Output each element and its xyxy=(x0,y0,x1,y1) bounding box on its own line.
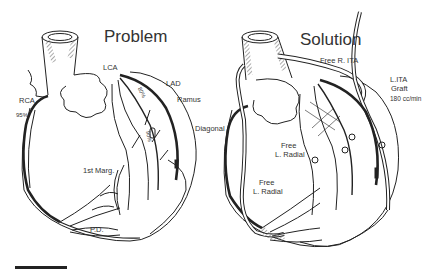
label-pd: P.D. xyxy=(90,225,104,234)
scale-bar xyxy=(15,266,67,269)
label-free-l-radial-2b: L. Radial xyxy=(253,187,283,196)
label-flow: 180 cc/min xyxy=(390,94,421,103)
label-rca-stenosis: 95% xyxy=(16,111,28,120)
heart-illustrations xyxy=(0,0,436,273)
solution-title: Solution xyxy=(300,30,361,50)
label-first-marginal: 1st Marg. xyxy=(83,166,114,175)
label-lita-graft: Graft xyxy=(391,84,408,93)
label-diagonal: Diagonal xyxy=(195,124,225,133)
problem-title: Problem xyxy=(104,27,167,47)
label-free-l-radial-2a: Free xyxy=(259,178,274,187)
label-ramus-stenosis: 90% xyxy=(143,130,154,142)
label-free-l-radial-1b: L. Radial xyxy=(275,150,305,159)
label-free-l-radial-1a: Free xyxy=(281,141,296,150)
label-lca: LCA xyxy=(103,63,118,72)
label-ramus: Ramus xyxy=(177,95,201,104)
coronary-bypass-diagram: Problem LCA LAD Ramus Diagonal RCA 95% 8… xyxy=(0,0,436,273)
label-lad: LAD xyxy=(166,79,181,88)
label-free-r-ita: Free R. ITA xyxy=(320,56,358,65)
label-lita: L.ITA xyxy=(390,75,407,84)
label-rca: RCA xyxy=(19,96,35,105)
